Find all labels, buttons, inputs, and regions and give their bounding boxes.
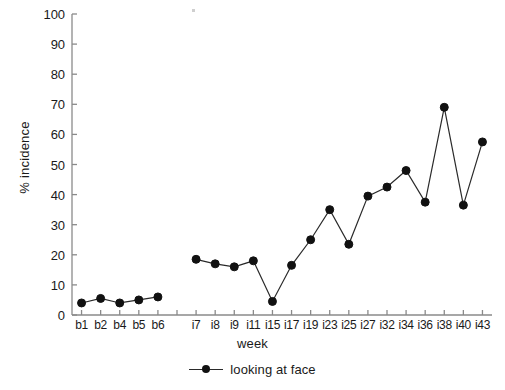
legend-entry-label: looking at face — [230, 362, 315, 377]
line-marker-icon — [189, 364, 223, 376]
chart-legend: looking at face — [0, 362, 505, 377]
plot-canvas — [0, 0, 505, 390]
chart-figure: % incidence week 0102030405060708090100 … — [0, 0, 505, 390]
